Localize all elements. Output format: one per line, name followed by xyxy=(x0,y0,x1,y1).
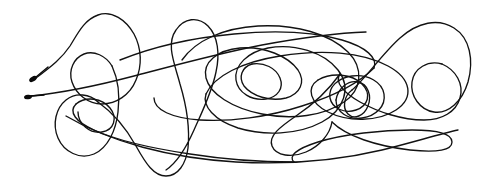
scribble-canvas xyxy=(0,0,487,188)
scribble-drawing xyxy=(0,0,487,188)
